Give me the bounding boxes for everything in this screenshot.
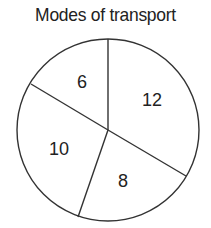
slice-label-6: 6: [77, 72, 87, 92]
slice-label-12: 12: [142, 90, 162, 110]
slice-label-10: 10: [49, 139, 69, 159]
slice-label-8: 8: [118, 171, 128, 191]
pie-chart: 12 8 10 6: [0, 0, 211, 228]
